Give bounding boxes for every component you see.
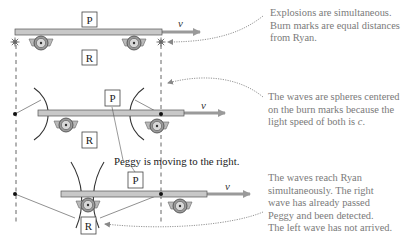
velocity-label: v xyxy=(225,180,230,192)
platform xyxy=(61,191,207,197)
note-line: on the burn marks because the xyxy=(268,104,400,117)
ryan-label: R xyxy=(86,52,94,64)
right-burn-mark-dot xyxy=(159,192,163,196)
note-waves-reach-ryan: The waves reach Ryan simultaneously. The… xyxy=(268,172,392,235)
right-burst-icon xyxy=(157,38,166,47)
frame-3-waves-reach-ryan: P R v xyxy=(13,162,263,234)
wheel xyxy=(122,36,146,50)
ryan-label: R xyxy=(85,220,93,232)
wheel xyxy=(76,198,100,212)
note-line: wave has already passed xyxy=(268,197,392,210)
peggy-moving-caption: Peggy is moving to the right. xyxy=(114,155,239,167)
platform xyxy=(15,29,162,35)
note-period: . xyxy=(362,116,365,127)
velocity-label: v xyxy=(178,17,183,29)
note-line: from Ryan. xyxy=(270,32,400,45)
note-line: light speed of both is c. xyxy=(268,116,400,129)
note-line: simultaneously. The right xyxy=(268,185,392,198)
wheel xyxy=(145,119,169,133)
note-line: Peggy and been detected. xyxy=(268,210,392,223)
left-wave-radius xyxy=(15,194,75,218)
left-wave-radius xyxy=(15,100,41,114)
left-burn-mark-dot xyxy=(13,192,17,196)
peggy-label: P xyxy=(109,92,115,104)
note-waves-spheres: The waves are spheres centered on the bu… xyxy=(268,91,400,129)
ryan-label: R xyxy=(86,134,94,146)
note-line: The left wave has not arrived. xyxy=(268,222,392,235)
right-wave-radius xyxy=(100,194,161,218)
peggy-label: P xyxy=(132,174,138,186)
frame-1-explosion: P R v xyxy=(11,12,264,65)
note-line: Burn marks are equal distances xyxy=(270,20,400,33)
note-line: The waves are spheres centered xyxy=(268,91,400,104)
note-explosions: Explosions are simultaneous. Burn marks … xyxy=(270,7,400,45)
note-line: The waves reach Ryan xyxy=(268,172,392,185)
note-line: Explosions are simultaneous. xyxy=(270,7,400,20)
frame-2-waves-expanding: P R v xyxy=(13,78,263,160)
wheel xyxy=(54,118,78,132)
note-pointer xyxy=(168,78,263,97)
peggy-label: P xyxy=(86,14,92,26)
left-burst-icon xyxy=(11,38,20,47)
wheel xyxy=(168,199,192,213)
right-burn-mark-dot xyxy=(159,112,163,116)
note-line-text: light speed of both is xyxy=(268,116,358,127)
velocity-label: v xyxy=(201,99,206,111)
left-burn-mark-dot xyxy=(13,112,17,116)
wheel xyxy=(29,36,53,50)
note-pointer xyxy=(105,212,263,227)
